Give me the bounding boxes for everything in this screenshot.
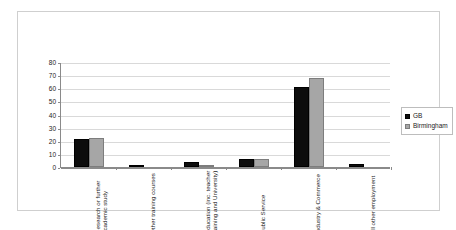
bar-gb [349, 164, 364, 167]
bar-group [74, 63, 104, 167]
y-axis-tick-label: 60 [49, 86, 56, 93]
x-axis-category-label: Public Service [259, 170, 266, 230]
bar-group [239, 63, 269, 167]
bar-gb [129, 165, 144, 167]
plot-area [60, 63, 390, 168]
bar-group [129, 63, 159, 167]
y-axis-tick-label: 80 [49, 60, 56, 67]
bar-birmingham [309, 78, 324, 167]
y-axis-tick-label: 50 [49, 99, 56, 106]
y-axis-tick-label: 10 [49, 152, 56, 159]
black-square-swatch-icon [405, 114, 410, 119]
y-axis-tick-label: 30 [49, 125, 56, 132]
x-axis-category-label: All other employment [369, 170, 376, 230]
legend-label: GB [413, 113, 422, 120]
legend-label: Birmingham [413, 123, 448, 130]
y-axis-tick-mark [58, 168, 60, 169]
chart-legend: GB Birmingham [401, 107, 453, 135]
y-axis-tick-label: 0 [52, 165, 56, 172]
x-axis-category-label: Education (inc. teacher training and Uni… [204, 170, 219, 230]
bar-group [184, 63, 214, 167]
x-axis-category-text: All other employment [369, 170, 376, 230]
bar-gb [184, 162, 199, 167]
legend-item-gb: GB [405, 111, 448, 121]
x-axis-category-label: Other training courses [149, 170, 156, 230]
x-axis-category-text: Research or further academic study [94, 170, 109, 230]
bar-group [349, 63, 379, 167]
x-axis-category-label: Research or further academic study [94, 170, 109, 230]
x-axis-labels: Research or further academic studyOther … [60, 170, 390, 230]
bars-layer [61, 63, 390, 167]
y-axis-tick-label: 70 [49, 73, 56, 80]
bar-gb [239, 159, 254, 167]
bar-gb [74, 139, 89, 167]
x-axis-tick-mark [391, 167, 392, 170]
x-axis-category-text: Education (inc. teacher training and Uni… [204, 170, 219, 230]
bar-birmingham [89, 138, 104, 167]
gray-square-swatch-icon [405, 124, 410, 129]
x-axis-category-text: Public Service [259, 170, 266, 230]
x-axis-category-label: Industry & Commerce [314, 170, 321, 230]
y-axis-tick-label: 20 [49, 139, 56, 146]
x-axis-category-text: Other training courses [149, 170, 156, 230]
legend-item-birmingham: Birmingham [405, 121, 448, 131]
bar-gb [294, 87, 309, 167]
x-axis-category-text: Industry & Commerce [314, 170, 321, 230]
chart-frame: 01020304050607080 Research or further ac… [17, 11, 440, 211]
bar-birmingham [199, 165, 214, 167]
y-axis-tick-label: 40 [49, 112, 56, 119]
bar-birmingham [254, 159, 269, 167]
bar-group [294, 63, 324, 167]
